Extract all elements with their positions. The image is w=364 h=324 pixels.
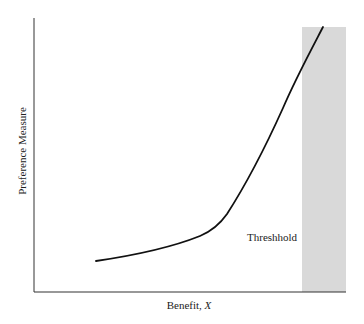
- x-axis-variable: X: [205, 299, 212, 311]
- preference-curve: [96, 27, 323, 261]
- chart-canvas: [0, 0, 364, 324]
- threshold-label: Threshhold: [247, 231, 297, 243]
- x-axis-label-text: Benefit,: [167, 299, 205, 311]
- threshold-shaded-region: [302, 27, 346, 292]
- y-axis-label: Preference Measure: [16, 107, 28, 195]
- x-axis-label: Benefit, X: [167, 299, 212, 311]
